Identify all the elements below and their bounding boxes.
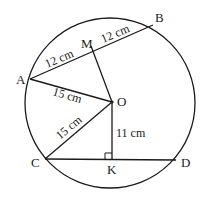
circle-geometry-diagram: A B M O C K D 12 cm 12 cm 15 cm 15 cm 11… — [0, 0, 205, 198]
label-o: O — [117, 94, 126, 109]
measure-ok: 11 cm — [116, 126, 146, 140]
label-c: C — [31, 155, 40, 170]
label-a: A — [16, 72, 26, 87]
label-k: K — [107, 162, 117, 177]
label-m: M — [81, 36, 93, 51]
chord-ab — [30, 25, 153, 79]
segment-om — [91, 46, 112, 102]
label-d: D — [181, 155, 190, 170]
measure-ao: 15 cm — [51, 84, 84, 106]
measure-am: 12 cm — [43, 46, 76, 71]
center-point-o — [110, 100, 113, 103]
label-b: B — [155, 10, 164, 25]
chord-cd — [45, 159, 176, 160]
